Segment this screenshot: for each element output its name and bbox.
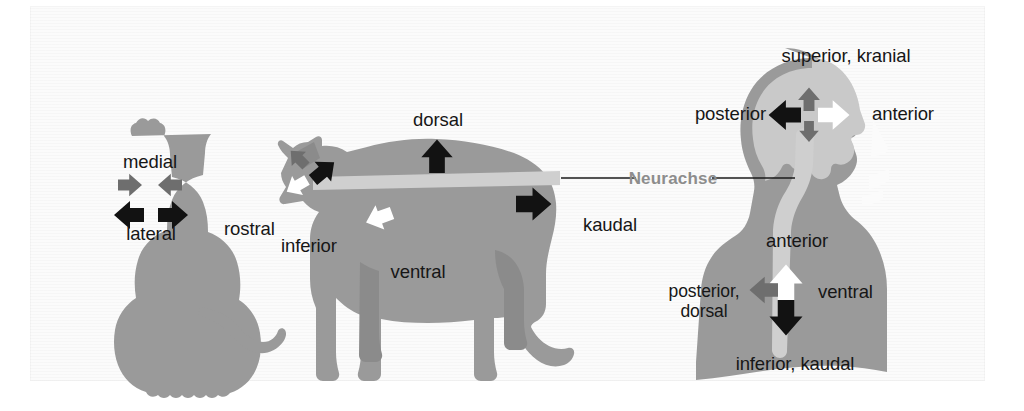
medial-arrows: [118, 174, 182, 196]
label-medial: medial: [123, 152, 177, 173]
label-posterior-dorsal: posterior, dorsal: [669, 282, 740, 321]
label-kaudal: kaudal: [583, 215, 637, 236]
label-ventral-human: ventral: [818, 282, 873, 303]
label-dorsal: dorsal: [413, 110, 463, 131]
label-lateral: lateral: [126, 224, 176, 245]
label-rostral: rostral: [224, 219, 275, 240]
label-superior-kranial: superior, kranial: [782, 46, 911, 67]
anatomy-orientation-figure: medial lateral dorsal ventral rostral in…: [0, 0, 1024, 411]
label-inferior: inferior: [281, 236, 337, 257]
label-ventral-dog: ventral: [391, 262, 446, 283]
label-inferior-kaudal: inferior, kaudal: [736, 354, 855, 375]
label-neurachse: Neurachse: [629, 169, 718, 188]
label-anterior-head: anterior: [872, 104, 934, 125]
label-posterior-head: posterior: [695, 104, 766, 125]
label-anterior-body: anterior: [766, 231, 828, 252]
